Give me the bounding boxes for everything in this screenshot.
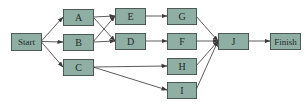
edge-a-to-e xyxy=(93,16,115,17)
edge-i-to-j xyxy=(196,41,218,90)
node-g: G xyxy=(168,9,197,25)
node-label: H xyxy=(178,61,185,72)
node-label: D xyxy=(127,36,134,47)
node-d: D xyxy=(116,34,146,50)
edge-h-to-j xyxy=(196,41,218,66)
node-label: J xyxy=(232,36,236,47)
node-label: E xyxy=(127,11,133,22)
node-i: I xyxy=(168,83,197,99)
node-label: A xyxy=(75,12,83,23)
network-diagram: StartABCEDGFHIJFinish xyxy=(0,0,305,105)
node-b: B xyxy=(64,35,94,51)
node-finish: Finish xyxy=(271,34,301,50)
nodes-layer: StartABCEDGFHIJFinish xyxy=(12,9,301,99)
node-c: C xyxy=(64,60,94,76)
edge-c-to-h xyxy=(93,66,167,67)
edge-g-to-j xyxy=(196,16,218,41)
edge-start-to-a xyxy=(41,17,63,42)
node-j: J xyxy=(219,34,249,50)
node-label: Finish xyxy=(274,37,297,47)
node-label: Start xyxy=(18,37,35,47)
node-e: E xyxy=(116,9,146,25)
node-label: I xyxy=(180,85,183,96)
node-a: A xyxy=(64,10,94,26)
node-label: C xyxy=(75,62,82,73)
edge-c-to-i xyxy=(93,67,167,90)
node-start: Start xyxy=(12,34,42,51)
edge-b-to-e xyxy=(93,16,115,42)
node-label: B xyxy=(75,37,82,48)
edge-b-to-d xyxy=(93,41,115,42)
node-h: H xyxy=(168,59,197,75)
node-label: F xyxy=(179,36,185,47)
edge-start-to-c xyxy=(41,42,63,68)
edge-start-to-b xyxy=(41,42,63,43)
edges-layer xyxy=(41,16,270,90)
node-f: F xyxy=(168,34,197,50)
node-label: G xyxy=(178,11,185,22)
